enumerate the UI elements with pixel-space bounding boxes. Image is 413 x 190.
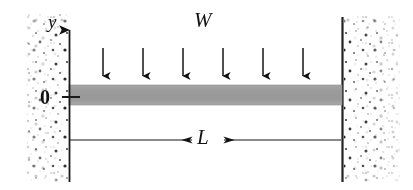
origin-label: 0 (40, 87, 50, 107)
y-axis-label: y (48, 12, 56, 31)
distributed-load-arrows (103, 48, 303, 76)
right-wall-support (343, 16, 401, 182)
right-wall-stipple-overlay (344, 16, 400, 182)
span-length-label: L (197, 127, 209, 148)
distributed-load-label: W (194, 10, 212, 31)
beam-diagram-figure: y 0 W L (0, 0, 413, 190)
beam-member (69, 85, 342, 105)
